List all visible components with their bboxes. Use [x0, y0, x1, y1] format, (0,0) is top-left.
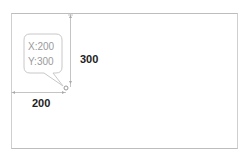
- height-label: 300: [80, 53, 98, 65]
- tooltip-text: X:200 Y:300: [28, 39, 54, 69]
- target-point-icon: [64, 86, 68, 90]
- width-label: 200: [32, 97, 50, 109]
- tooltip-y: Y:300: [28, 54, 54, 69]
- dimension-guides: [0, 0, 245, 162]
- tooltip-x: X:200: [28, 39, 54, 54]
